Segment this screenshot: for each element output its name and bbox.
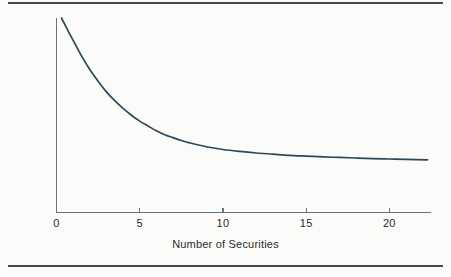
axis-lines (57, 18, 432, 213)
chart-plot-area (0, 0, 451, 277)
x-tick-label: 20 (369, 217, 409, 229)
risk-curve (61, 18, 427, 160)
x-tick-label: 10 (203, 217, 243, 229)
x-tick-label: 0 (37, 217, 77, 229)
x-tick-label: 15 (286, 217, 326, 229)
chart-figure: 05101520 Number of Securities Portfolio … (0, 0, 451, 277)
axes-group (57, 18, 432, 213)
x-axis-title: Number of Securities (0, 238, 451, 250)
x-tick-label: 5 (120, 217, 160, 229)
